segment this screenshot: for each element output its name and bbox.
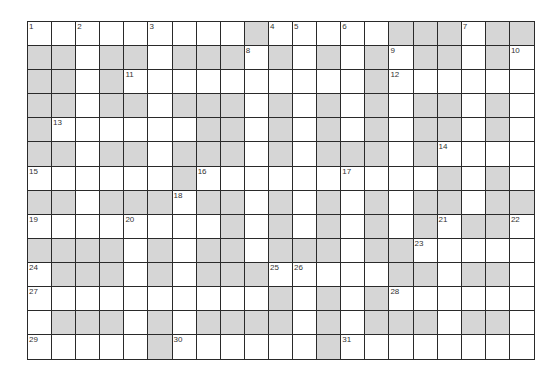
answer-cell[interactable]: 5 <box>293 22 317 46</box>
answer-cell[interactable]: 1 <box>28 22 52 46</box>
answer-cell[interactable]: 11 <box>124 70 148 94</box>
answer-cell[interactable] <box>293 191 317 215</box>
answer-cell[interactable] <box>510 94 534 118</box>
answer-cell[interactable] <box>173 70 197 94</box>
answer-cell[interactable] <box>245 287 269 311</box>
answer-cell[interactable] <box>389 118 413 142</box>
answer-cell[interactable] <box>148 46 172 70</box>
answer-cell[interactable] <box>100 287 124 311</box>
answer-cell[interactable] <box>221 70 245 94</box>
answer-cell[interactable] <box>510 287 534 311</box>
answer-cell[interactable] <box>124 22 148 46</box>
answer-cell[interactable] <box>486 287 510 311</box>
answer-cell[interactable] <box>389 142 413 166</box>
answer-cell[interactable] <box>510 311 534 335</box>
answer-cell[interactable]: 2 <box>76 22 100 46</box>
answer-cell[interactable] <box>341 70 365 94</box>
answer-cell[interactable] <box>293 287 317 311</box>
answer-cell[interactable]: 26 <box>293 263 317 287</box>
answer-cell[interactable] <box>52 22 76 46</box>
answer-cell[interactable] <box>173 287 197 311</box>
answer-cell[interactable] <box>341 118 365 142</box>
answer-cell[interactable] <box>124 263 148 287</box>
answer-cell[interactable] <box>486 239 510 263</box>
answer-cell[interactable] <box>124 167 148 191</box>
answer-cell[interactable] <box>173 215 197 239</box>
answer-cell[interactable] <box>341 287 365 311</box>
answer-cell[interactable] <box>76 167 100 191</box>
answer-cell[interactable] <box>341 215 365 239</box>
answer-cell[interactable] <box>148 94 172 118</box>
answer-cell[interactable] <box>245 215 269 239</box>
answer-cell[interactable] <box>76 287 100 311</box>
answer-cell[interactable]: 16 <box>197 167 221 191</box>
answer-cell[interactable]: 22 <box>510 215 534 239</box>
answer-cell[interactable] <box>76 335 100 359</box>
answer-cell[interactable] <box>124 239 148 263</box>
answer-cell[interactable] <box>462 287 486 311</box>
answer-cell[interactable] <box>173 263 197 287</box>
answer-cell[interactable] <box>100 335 124 359</box>
answer-cell[interactable] <box>510 239 534 263</box>
answer-cell[interactable]: 9 <box>389 46 413 70</box>
answer-cell[interactable]: 21 <box>438 215 462 239</box>
answer-cell[interactable] <box>197 287 221 311</box>
answer-cell[interactable] <box>100 167 124 191</box>
answer-cell[interactable] <box>462 142 486 166</box>
answer-cell[interactable] <box>486 335 510 359</box>
answer-cell[interactable] <box>245 118 269 142</box>
answer-cell[interactable] <box>221 22 245 46</box>
answer-cell[interactable]: 29 <box>28 335 52 359</box>
answer-cell[interactable] <box>76 191 100 215</box>
answer-cell[interactable] <box>293 94 317 118</box>
answer-cell[interactable] <box>148 287 172 311</box>
answer-cell[interactable] <box>76 118 100 142</box>
answer-cell[interactable] <box>197 215 221 239</box>
answer-cell[interactable] <box>510 118 534 142</box>
answer-cell[interactable] <box>124 335 148 359</box>
answer-cell[interactable] <box>438 70 462 94</box>
answer-cell[interactable] <box>148 215 172 239</box>
answer-cell[interactable] <box>245 335 269 359</box>
answer-cell[interactable] <box>76 94 100 118</box>
answer-cell[interactable] <box>173 22 197 46</box>
answer-cell[interactable] <box>510 142 534 166</box>
answer-cell[interactable]: 14 <box>438 142 462 166</box>
answer-cell[interactable] <box>100 22 124 46</box>
answer-cell[interactable] <box>462 335 486 359</box>
answer-cell[interactable] <box>389 167 413 191</box>
answer-cell[interactable] <box>269 335 293 359</box>
answer-cell[interactable] <box>341 94 365 118</box>
answer-cell[interactable] <box>438 239 462 263</box>
answer-cell[interactable] <box>245 167 269 191</box>
answer-cell[interactable] <box>438 335 462 359</box>
answer-cell[interactable]: 13 <box>52 118 76 142</box>
answer-cell[interactable] <box>341 263 365 287</box>
answer-cell[interactable] <box>221 287 245 311</box>
answer-cell[interactable] <box>510 263 534 287</box>
answer-cell[interactable]: 7 <box>462 22 486 46</box>
answer-cell[interactable] <box>52 335 76 359</box>
answer-cell[interactable] <box>245 94 269 118</box>
answer-cell[interactable] <box>293 142 317 166</box>
answer-cell[interactable] <box>173 239 197 263</box>
answer-cell[interactable] <box>173 118 197 142</box>
answer-cell[interactable] <box>76 215 100 239</box>
answer-cell[interactable] <box>389 94 413 118</box>
answer-cell[interactable] <box>414 335 438 359</box>
answer-cell[interactable] <box>100 118 124 142</box>
answer-cell[interactable] <box>245 191 269 215</box>
answer-cell[interactable] <box>486 142 510 166</box>
answer-cell[interactable]: 30 <box>173 335 197 359</box>
answer-cell[interactable] <box>76 70 100 94</box>
answer-cell[interactable] <box>52 287 76 311</box>
answer-cell[interactable] <box>389 191 413 215</box>
answer-cell[interactable] <box>293 311 317 335</box>
answer-cell[interactable] <box>52 215 76 239</box>
answer-cell[interactable]: 31 <box>341 335 365 359</box>
answer-cell[interactable] <box>510 335 534 359</box>
answer-cell[interactable] <box>245 70 269 94</box>
answer-cell[interactable]: 23 <box>414 239 438 263</box>
answer-cell[interactable]: 20 <box>124 215 148 239</box>
answer-cell[interactable] <box>197 70 221 94</box>
